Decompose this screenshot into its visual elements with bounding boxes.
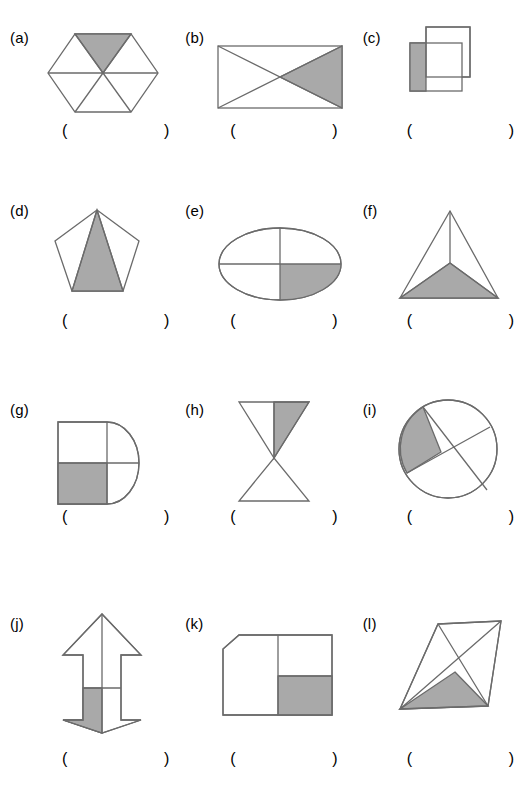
- worksheet-item-k: (k) ( ): [177, 588, 354, 788]
- item-label-g: (g): [10, 402, 29, 417]
- answer-blank-j[interactable]: ( ): [62, 750, 179, 768]
- answer-blank-e[interactable]: ( ): [230, 312, 347, 330]
- worksheet-row-4: (j) ( ) (k): [0, 588, 532, 788]
- answer-blank-f[interactable]: ( ): [407, 312, 524, 330]
- answer-blank-l[interactable]: ( ): [407, 750, 524, 768]
- item-label-a: (a): [10, 30, 29, 45]
- worksheet-item-d: (d) ( ): [0, 186, 177, 346]
- item-label-i: (i): [363, 402, 377, 417]
- fractions-worksheet: (a) ( ) (b) ( ): [0, 0, 532, 796]
- figure-ellipse-quartered[interactable]: [217, 226, 347, 306]
- figure-double-headed-arrow-quartered[interactable]: [52, 602, 152, 742]
- answer-blank-d[interactable]: ( ): [62, 312, 179, 330]
- worksheet-item-l: (l) ( ): [355, 588, 532, 788]
- worksheet-item-i: (i) ( ): [355, 378, 532, 548]
- clipped-square-shaded-part: [278, 676, 332, 715]
- item-label-e: (e): [185, 203, 204, 218]
- item-label-j: (j): [10, 616, 24, 631]
- figure-two-overlapping-squares[interactable]: [400, 25, 495, 115]
- figure-clipped-square-parts[interactable]: [217, 626, 347, 731]
- answer-blank-b[interactable]: ( ): [230, 122, 347, 140]
- item-label-f: (f): [363, 203, 378, 218]
- worksheet-item-j: (j) ( ): [0, 588, 177, 788]
- figure-hourglass-two-triangles[interactable]: [232, 396, 322, 506]
- figure-square-semicircle-quartered[interactable]: [55, 400, 160, 505]
- worksheet-item-f: (f) ( ): [355, 186, 532, 346]
- answer-blank-a[interactable]: ( ): [62, 122, 179, 140]
- answer-blank-g[interactable]: ( ): [62, 508, 179, 526]
- item-label-b: (b): [185, 30, 204, 45]
- answer-blank-k[interactable]: ( ): [230, 750, 347, 768]
- worksheet-row-3: (g) ( ) (h): [0, 378, 532, 548]
- figure-circle-two-chords[interactable]: [395, 394, 505, 504]
- shaded-bottom-left-quadrant: [58, 463, 107, 504]
- item-label-c: (c): [363, 30, 381, 45]
- figure-hexagon-six-triangles[interactable]: [48, 22, 158, 122]
- answer-blank-h[interactable]: ( ): [230, 508, 347, 526]
- hourglass-lower-triangle: [239, 458, 309, 501]
- figure-triangle-three-parts[interactable]: [395, 206, 505, 311]
- figure-quadrilateral-two-diagonals[interactable]: [393, 610, 508, 720]
- item-label-d: (d): [10, 203, 29, 218]
- figure-pentagon-three-triangles[interactable]: [50, 208, 150, 308]
- answer-blank-c[interactable]: ( ): [407, 122, 524, 140]
- worksheet-item-e: (e) ( ): [177, 186, 354, 346]
- figure-rectangle-two-diagonals[interactable]: [217, 28, 347, 113]
- item-label-k: (k): [185, 616, 203, 631]
- worksheet-item-g: (g) ( ): [0, 378, 177, 548]
- item-label-h: (h): [185, 402, 204, 417]
- worksheet-row-2: (d) ( ) (e): [0, 186, 532, 346]
- answer-blank-i[interactable]: ( ): [407, 508, 524, 526]
- item-label-l: (l): [363, 616, 377, 631]
- worksheet-item-h: (h) ( ): [177, 378, 354, 548]
- squares-shaded-strip: [410, 43, 426, 91]
